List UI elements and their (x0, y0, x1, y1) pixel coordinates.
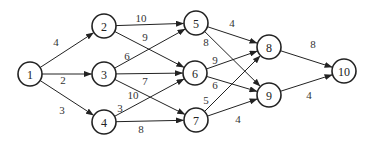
node-10: 10 (332, 59, 356, 83)
edge-weight-label: 8 (310, 38, 316, 50)
edge-weight-label: 8 (138, 123, 144, 135)
edge-weight-label: 4 (53, 36, 59, 48)
edge-weight-label: 5 (203, 94, 209, 106)
edge-1-4 (40, 81, 93, 116)
node-label: 2 (101, 20, 107, 34)
node-label: 6 (192, 67, 198, 81)
edge-2-5 (116, 23, 184, 25)
node-label: 9 (266, 89, 272, 103)
edge-weight-label: 9 (142, 31, 148, 43)
node-5: 5 (184, 11, 208, 35)
network-diagram: 42310967103848965484 12345678910 (0, 0, 366, 141)
node-label: 10 (338, 65, 350, 79)
nodes-layer: 12345678910 (18, 11, 356, 134)
edge-5-8 (207, 27, 257, 43)
edge-weight-label: 4 (306, 89, 312, 101)
node-label: 3 (101, 68, 107, 82)
node-label: 1 (27, 68, 33, 82)
edge-weight-label: 9 (212, 54, 218, 66)
node-4: 4 (92, 110, 116, 134)
edge-weight-label: 2 (60, 74, 66, 86)
node-label: 8 (266, 41, 272, 55)
edge-1-2 (40, 33, 93, 68)
edge-weight-label: 4 (235, 113, 241, 125)
node-label: 5 (193, 17, 199, 31)
edge-weight-label: 4 (229, 17, 235, 29)
edge-weight-label: 6 (124, 50, 130, 62)
node-7: 7 (184, 108, 208, 132)
node-6: 6 (183, 61, 207, 85)
node-1: 1 (18, 62, 42, 86)
node-label: 7 (193, 114, 199, 128)
edge-weight-label: 6 (212, 79, 218, 91)
node-3: 3 (92, 62, 116, 86)
edge-weight-label: 3 (117, 102, 123, 114)
node-2: 2 (92, 14, 116, 38)
edge-weight-label: 7 (142, 75, 148, 87)
edge-4-7 (116, 120, 184, 121)
edge-weight-label: 8 (203, 36, 209, 48)
node-label: 4 (101, 116, 107, 130)
edge-weight-label: 10 (128, 89, 140, 101)
edge-weight-label: 3 (59, 104, 65, 116)
node-9: 9 (257, 83, 281, 107)
edge-8-10 (280, 51, 332, 67)
node-8: 8 (257, 35, 281, 59)
edge-3-6 (116, 73, 183, 74)
edge-weight-label: 10 (136, 12, 148, 24)
